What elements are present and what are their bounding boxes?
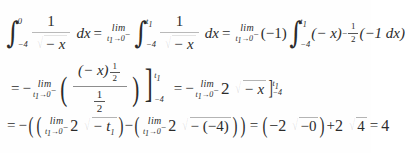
half-numerator: 1 xyxy=(94,89,106,101)
limit-side: − xyxy=(62,122,68,132)
radical-7: √ 4 xyxy=(348,117,367,134)
limit-word: lim xyxy=(240,23,254,33)
limit-subscript: t1→0− xyxy=(33,90,56,99)
differential-dx-2: dx xyxy=(205,26,219,41)
integral-upper-limit: t1 xyxy=(300,17,310,26)
limit-word: lim xyxy=(112,23,126,33)
exponent-denominator: 2 xyxy=(110,74,121,83)
eval-lower-limit: −4 xyxy=(154,96,163,104)
radical-4: √ − t1 xyxy=(83,117,116,134)
radical-2: √ − x xyxy=(164,35,196,53)
leading-minus-2: − xyxy=(185,81,193,96)
equals-sign-7: = xyxy=(370,118,378,133)
denominator-half: 1 2 xyxy=(94,89,106,115)
equation-line-2: = − lim t1→0− ( (− x)12 1 2 ) ] t xyxy=(8,62,282,115)
eval-upper-limit: t1 xyxy=(154,72,163,80)
exponent-negative-one-half: − 1 2 xyxy=(342,22,360,44)
radicand: − t1 xyxy=(92,117,117,134)
limit-operator-2: lim t1→0− xyxy=(235,23,258,43)
result-paren-open: ( xyxy=(263,118,268,133)
radical-hook-icon: √ xyxy=(85,118,91,133)
equation-line-3: = − ( ( lim t1→0− 2 √ − t1 ) − ( lim t1→… xyxy=(4,116,389,136)
fraction-bar xyxy=(73,86,127,87)
radicand-index: 1 xyxy=(111,128,115,137)
radical-1: √ − x xyxy=(36,35,68,53)
limit-index: 1 xyxy=(198,92,202,101)
limit-subscript: t1→0− xyxy=(45,127,68,136)
inner-paren-open-1: ( xyxy=(36,118,41,133)
limit-operator-1: lim t1→0− xyxy=(107,23,130,43)
limit-operator-4: lim t1→0− xyxy=(196,79,219,99)
radical-5: √ − (−4) xyxy=(181,117,230,134)
limit-side: − xyxy=(160,122,166,132)
radical-3: √ − x xyxy=(234,80,266,97)
limit-subscript: t1→0− xyxy=(107,34,130,43)
result-coefficient-2: 2 xyxy=(335,118,343,134)
radical-6: √ −0 xyxy=(291,117,318,134)
plus-operator: + xyxy=(326,118,334,133)
inner-paren-open-2: ( xyxy=(135,118,140,133)
exponent-fraction: 1 2 xyxy=(348,22,359,44)
equals-sign-4: = xyxy=(174,81,182,96)
eval-upper-index: 1 xyxy=(156,74,160,83)
leading-minus-3: − xyxy=(18,118,26,133)
radical-hook-icon: √ xyxy=(292,118,298,133)
coefficient-two-2: 2 xyxy=(70,118,78,134)
integral-upper-limit: 0 xyxy=(18,17,28,26)
numerator-exponent: 12 xyxy=(110,62,121,84)
power-base: (− x) xyxy=(311,26,342,41)
limit-index: 1 xyxy=(109,37,113,46)
big-paren-open: ( xyxy=(60,78,67,99)
radicand-text: − t xyxy=(93,118,111,134)
inner-paren-close-1: ) xyxy=(118,118,123,133)
final-answer: 4 xyxy=(381,118,389,134)
radical-hook-icon: √ xyxy=(37,36,43,52)
coefficient-negative-one: (−1) xyxy=(261,26,287,41)
radicand: − x xyxy=(44,35,68,53)
integral-lower-limit: −4 xyxy=(18,40,28,49)
limit-side: − xyxy=(125,29,131,39)
fraction-numerator: 1 xyxy=(173,14,187,30)
outer-paren-close: ) xyxy=(240,118,245,133)
evaluation-bracket-1: ] t1 −4 xyxy=(142,72,164,104)
fraction-denominator: 1 2 xyxy=(90,89,110,115)
fraction-2: 1 √ − x xyxy=(160,14,199,53)
evaluation-limits-2: t1 −4 xyxy=(273,80,282,97)
exponent-numerator: 1 xyxy=(110,62,121,71)
limit-index: 1 xyxy=(35,92,39,101)
integral-lower-limit: −4 xyxy=(146,40,156,49)
integral-lower-limit: −4 xyxy=(300,40,310,49)
upper-limit-index: 1 xyxy=(148,19,152,28)
coefficient-two-1: 2 xyxy=(221,80,230,97)
limit-subscript: t1→0− xyxy=(143,127,166,136)
coefficient-two-3: 2 xyxy=(168,118,176,134)
radical-hook-icon: √ xyxy=(236,81,242,96)
subtraction-operator: − xyxy=(125,118,133,133)
fraction-denominator: √ − x xyxy=(160,35,199,53)
big-paren-close: ) xyxy=(132,78,139,99)
equals-sign-2: = xyxy=(222,26,230,41)
radical-hook-icon: √ xyxy=(349,118,355,133)
half-denominator: 2 xyxy=(94,103,106,115)
limit-side: − xyxy=(50,85,56,95)
radical-hook-icon: √ xyxy=(183,118,189,133)
equals-sign-6: = xyxy=(250,118,258,133)
leading-minus-1: − xyxy=(22,81,30,96)
fraction-1: 1 √ − x xyxy=(32,14,71,53)
eval-lower-limit: −4 xyxy=(273,89,282,97)
fraction-denominator: √ − x xyxy=(32,35,71,53)
exponent-numerator: 1 xyxy=(348,22,359,31)
radicand: − x xyxy=(172,35,196,53)
exponent-denominator: 2 xyxy=(348,35,359,44)
fraction-numerator: (− x)12 xyxy=(75,62,124,84)
eval-upper-limit: t1 xyxy=(273,80,282,88)
fraction-numerator: 1 xyxy=(44,14,58,30)
limit-side: − xyxy=(213,85,219,95)
equals-sign-1: = xyxy=(94,26,102,41)
result-coefficient-1: −2 xyxy=(269,118,286,134)
limit-operator-5: lim t1→0− xyxy=(45,116,68,136)
tail-differential: (−1 dx) xyxy=(359,26,405,41)
bracket-glyph: ] xyxy=(269,80,273,95)
equals-sign-3: = xyxy=(11,81,19,96)
